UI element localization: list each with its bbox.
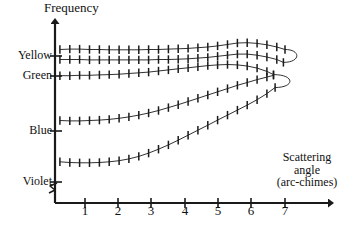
series-branch-violet [60, 83, 275, 167]
x-axis-title-line3: (arc-chimes) [277, 175, 338, 189]
x-tick-label-7: 7 [277, 204, 293, 218]
y-label-blue: Blue [0, 124, 52, 137]
data-series-layer [60, 39, 297, 168]
y-label-green: Green [0, 69, 52, 82]
figure-root: Frequency Scatteringangle(arc-chimes) Ye… [0, 0, 353, 233]
series-line [60, 65, 274, 76]
x-tick-label-5: 5 [210, 204, 226, 218]
x-tick-label-4: 4 [177, 204, 193, 218]
series-branch-upper [60, 39, 285, 55]
x-tick-label-3: 3 [143, 204, 159, 218]
series-branch-yellow [60, 50, 284, 67]
x-tick-label-1: 1 [77, 204, 93, 218]
x-axis-title: Scatteringangle(arc-chimes) [262, 151, 352, 189]
series-line [60, 75, 274, 121]
series-branch-blue [60, 71, 274, 125]
fold-lower [274, 75, 290, 88]
series-branch-green [60, 60, 274, 80]
series-line [60, 54, 284, 62]
y-label-violet: Violet [0, 175, 52, 188]
y-label-yellow: Yellow [0, 49, 52, 62]
x-tick-label-2: 2 [110, 204, 126, 218]
y-axis-title: Frequency [44, 1, 99, 15]
series-line [60, 43, 285, 50]
series-line [60, 88, 275, 163]
plot-canvas [0, 0, 353, 233]
x-tick-label-6: 6 [243, 204, 259, 218]
